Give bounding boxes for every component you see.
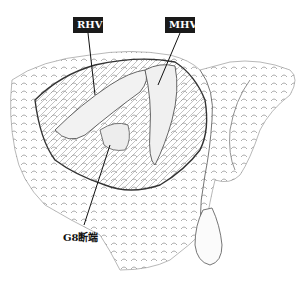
g8-stump-label: G8断端 <box>63 232 99 244</box>
liver-drawing <box>0 0 305 290</box>
rhv-label: RHV <box>73 17 103 33</box>
mhv-label: MHV <box>165 17 195 33</box>
anatomical-illustration: RHV MHV G8断端 <box>0 0 305 290</box>
